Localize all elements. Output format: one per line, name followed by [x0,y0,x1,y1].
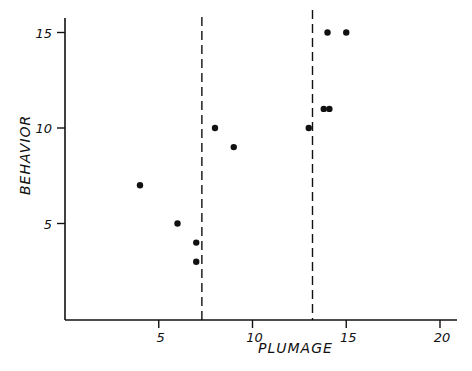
y-tick-label: 10 [35,121,52,136]
data-point [174,220,180,226]
axes [65,18,457,320]
scatter-chart: 51015 5101520 PLUMAGE BEHAVIOR [0,0,472,371]
y-tick-label: 15 [35,26,52,41]
x-tick-label: 15 [340,330,357,345]
data-point [231,144,237,150]
data-point [193,259,199,265]
data-point [324,29,330,35]
data-point [326,106,332,112]
data-point [212,125,218,131]
x-tick-label: 5 [157,330,165,345]
x-axis-label: PLUMAGE [258,340,333,356]
data-point [137,182,143,188]
y-ticks: 51015 [35,26,65,232]
reference-lines [202,10,313,320]
x-tick-label: 20 [434,330,451,345]
data-point [321,106,327,112]
data-point [343,29,349,35]
data-point [306,125,312,131]
data-point [193,239,199,245]
y-axis-label: BEHAVIOR [17,115,33,195]
data-points [137,29,350,265]
y-tick-label: 5 [44,217,52,232]
